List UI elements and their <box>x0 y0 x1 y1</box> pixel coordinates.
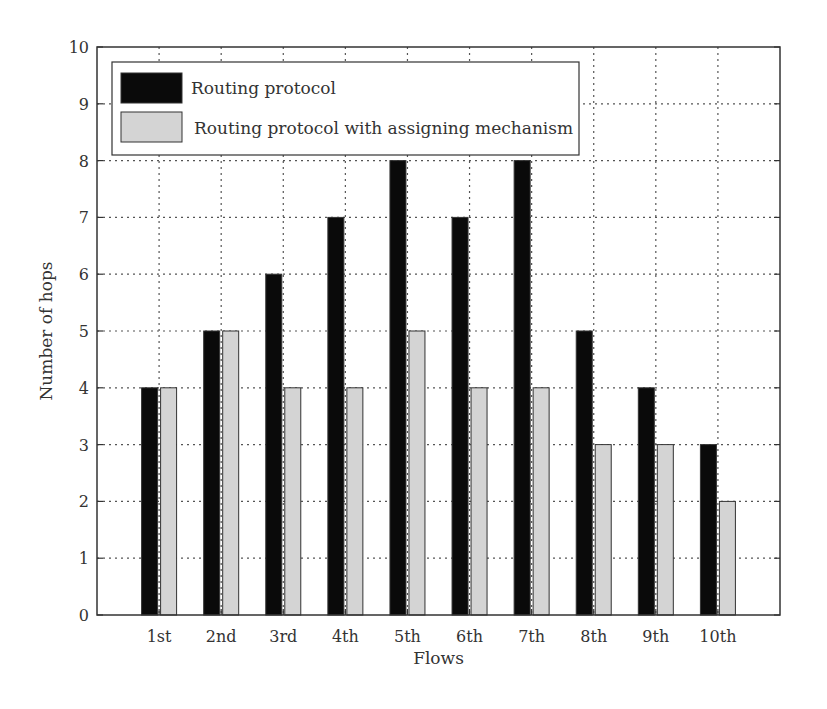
bar-routing-protocol <box>576 331 592 615</box>
bar-routing-protocol <box>390 161 406 615</box>
bar-routing-protocol <box>638 388 654 615</box>
y-tick-label: 10 <box>69 38 89 57</box>
bar-routing-protocol <box>204 331 220 615</box>
y-tick-label: 4 <box>79 379 89 398</box>
legend-label-routing-protocol: Routing protocol <box>191 78 336 98</box>
x-tick-label: 9th <box>642 627 669 646</box>
y-tick-label: 2 <box>79 492 89 511</box>
y-tick-label: 7 <box>79 208 89 227</box>
x-tick-label: 5th <box>394 627 421 646</box>
bar-chart: 012345678910 1st2nd3rd4th5th6th7th8th9th… <box>0 0 827 709</box>
bar-with-assigning-mechanism <box>223 331 239 615</box>
x-tick-label: 7th <box>518 627 545 646</box>
x-tick-label: 6th <box>456 627 483 646</box>
bar-with-assigning-mechanism <box>347 388 363 615</box>
x-tick-label: 1st <box>147 627 172 646</box>
bar-routing-protocol <box>452 217 468 615</box>
x-tick-label: 10th <box>699 627 736 646</box>
bar-with-assigning-mechanism <box>409 331 425 615</box>
bar-routing-protocol <box>266 274 282 615</box>
y-tick-label: 5 <box>79 322 89 341</box>
x-tick-label: 4th <box>332 627 359 646</box>
x-tick-label: 2nd <box>206 627 237 646</box>
x-tick-label: 8th <box>580 627 607 646</box>
bar-routing-protocol <box>514 161 530 615</box>
x-axis-title: Flows <box>413 648 464 668</box>
legend-label-with-assigning-mechanism: Routing protocol with assigning mechanis… <box>194 118 573 138</box>
bar-with-assigning-mechanism <box>719 501 735 615</box>
bars <box>142 161 736 615</box>
bar-with-assigning-mechanism <box>161 388 177 615</box>
x-tick-label: 3rd <box>269 627 297 646</box>
bar-with-assigning-mechanism <box>285 388 301 615</box>
y-tick-label: 8 <box>79 152 89 171</box>
legend-swatch-with-assigning-mechanism <box>121 112 182 142</box>
y-tick-label: 9 <box>79 95 89 114</box>
legend-swatch-routing-protocol <box>121 73 182 103</box>
y-axis-title: Number of hops <box>36 261 56 400</box>
legend: Routing protocol Routing protocol with a… <box>112 62 579 155</box>
y-tick-label: 6 <box>79 265 89 284</box>
y-tick-label: 1 <box>79 549 89 568</box>
bar-with-assigning-mechanism <box>471 388 487 615</box>
bar-routing-protocol <box>142 388 158 615</box>
bar-with-assigning-mechanism <box>657 445 673 615</box>
y-tick-label: 0 <box>79 606 89 625</box>
y-tick-label: 3 <box>79 436 89 455</box>
bar-routing-protocol <box>328 217 344 615</box>
bar-routing-protocol <box>700 445 716 615</box>
bar-with-assigning-mechanism <box>533 388 549 615</box>
bar-with-assigning-mechanism <box>595 445 611 615</box>
